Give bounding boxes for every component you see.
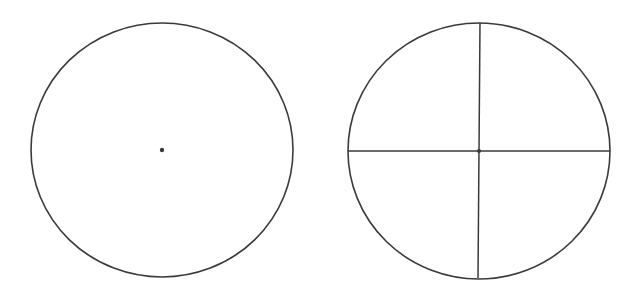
right-center-dot — [477, 149, 481, 153]
right-circle-group — [348, 23, 610, 279]
diagram-canvas — [0, 0, 633, 303]
left-center-dot — [160, 148, 164, 152]
left-circle-group — [31, 23, 293, 277]
